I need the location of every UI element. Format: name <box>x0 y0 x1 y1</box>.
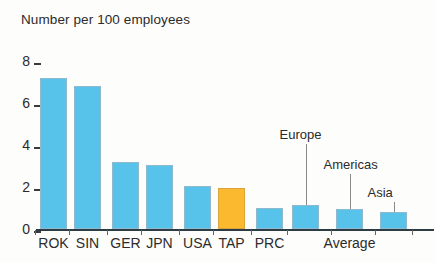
x-axis-tick-mark <box>107 230 108 235</box>
y-axis-tick-label: 0 <box>22 222 30 236</box>
annotation-leader-line-europe <box>306 144 307 205</box>
bar-prc <box>256 208 283 229</box>
bar-americas <box>336 209 363 229</box>
annotation-leader-line-americas <box>350 174 351 209</box>
bar-europe <box>292 205 319 229</box>
x-axis-tick-mark <box>179 230 180 235</box>
bar-ger <box>112 162 139 229</box>
chart-title: Number per 100 employees <box>21 12 190 27</box>
y-axis-tick-label: 4 <box>22 138 30 152</box>
x-axis-label-ger: GER <box>110 236 140 250</box>
x-axis-tick-mark <box>251 230 252 235</box>
x-axis-label-sin: SIN <box>76 236 99 250</box>
x-axis-labels: ROKSINGERJPNUSATAPPRCAverage <box>0 236 436 262</box>
bar-chart: Number per 100 employees 02468 ROKSINGER… <box>0 0 436 263</box>
x-axis-label-usa: USA <box>183 236 212 250</box>
bar-asia <box>380 212 407 229</box>
y-axis-tick-label: 2 <box>22 180 30 194</box>
x-axis-tick-mark <box>141 230 142 235</box>
x-axis-label-tap: TAP <box>218 236 244 250</box>
annotation-leader-line-asia <box>394 202 395 212</box>
y-axis-tick-label: 6 <box>22 96 30 110</box>
plot-area <box>36 45 432 230</box>
annotation-label-americas: Americas <box>324 158 378 171</box>
bar-rok <box>40 78 67 229</box>
x-axis-tick-mark <box>35 230 36 235</box>
x-axis-tick-mark <box>287 230 288 235</box>
x-axis-label-prc: PRC <box>255 236 285 250</box>
bar-jpn <box>146 165 173 229</box>
x-axis-tick-mark <box>412 230 413 235</box>
x-axis-tick-mark <box>69 230 70 235</box>
annotation-label-europe: Europe <box>280 128 322 141</box>
annotation-label-asia: Asia <box>368 186 393 199</box>
y-axis-tick-label: 8 <box>22 54 30 68</box>
x-axis-label-jpn: JPN <box>146 236 172 250</box>
x-axis-group-label-average: Average <box>324 236 376 250</box>
bar-sin <box>74 86 101 229</box>
bar-usa <box>184 186 211 229</box>
x-axis-tick-mark <box>213 230 214 235</box>
bar-tap <box>218 188 245 229</box>
x-axis-label-rok: ROK <box>38 236 68 250</box>
